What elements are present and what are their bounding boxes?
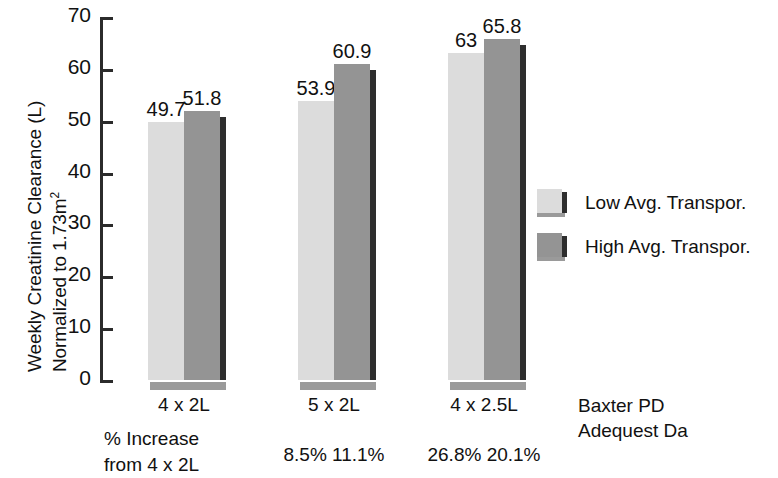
legend-swatch-icon — [537, 233, 567, 261]
bar-group: 49.751.84 x 2L — [148, 17, 220, 380]
y-axis-tick-mark — [100, 328, 113, 331]
percent-increase-note-line2: from 4 x 2L — [104, 452, 199, 478]
y-axis-tick-label: 0 — [79, 367, 91, 388]
source-caption-line2: Adequest Da — [578, 418, 688, 443]
bar-value-label: 51.8 — [183, 88, 222, 108]
y-axis-tick-label: 30 — [68, 211, 91, 232]
legend-swatch-base-shadow — [537, 213, 565, 217]
bar[interactable]: 53.9 — [298, 101, 334, 381]
bar[interactable]: 51.8 — [184, 111, 220, 380]
bar-body — [298, 101, 334, 381]
bar-value-label: 65.8 — [483, 16, 522, 36]
y-axis-tick-label: 70 — [68, 4, 91, 25]
bar-value-label: 60.9 — [333, 41, 372, 61]
bar-value-label: 63 — [455, 30, 477, 50]
bar-body — [184, 111, 220, 380]
legend-item[interactable]: High Avg. Transpor. — [537, 225, 750, 269]
legend-swatch-icon — [537, 189, 567, 217]
percent-increase-note-line1: % Increase — [104, 426, 199, 452]
y-axis-tick-label: 20 — [68, 263, 91, 284]
plot-area: 706050403020100 49.751.84 x 2L53.960.95 … — [100, 17, 560, 380]
legend-swatch-side-shadow — [562, 192, 567, 213]
y-axis-tick-mark — [100, 121, 113, 124]
y-axis-tick-mark — [100, 69, 113, 72]
legend-swatch-body — [537, 233, 562, 257]
y-axis-tick-mark — [100, 380, 113, 383]
y-axis-tick-mark — [100, 173, 113, 176]
y-axis-title-superscript: 2 — [48, 192, 62, 199]
legend-swatch-body — [537, 189, 562, 213]
y-axis-tick-label: 50 — [68, 108, 91, 129]
bar[interactable]: 63 — [448, 53, 484, 380]
legend-item-label: High Avg. Transpor. — [585, 236, 750, 258]
x-axis-category-label: 5 x 2L — [308, 394, 360, 416]
bar-group-base-shadow — [150, 382, 226, 390]
y-axis-title-line1: Weekly Creatinine Clearance (L) — [24, 101, 46, 372]
legend-swatch-side-shadow — [562, 236, 567, 257]
x-axis-category-label: 4 x 2.5L — [450, 394, 518, 416]
bar-side-shadow — [220, 117, 226, 380]
y-axis-tick-mark — [100, 224, 113, 227]
bar[interactable]: 65.8 — [484, 39, 520, 380]
y-axis-tick-mark — [100, 17, 113, 20]
bar-group: 6365.84 x 2.5L26.8% 20.1% — [448, 17, 520, 380]
bar-group: 53.960.95 x 2L8.5% 11.1% — [298, 17, 370, 380]
bar[interactable]: 49.7 — [148, 122, 184, 380]
source-caption: Baxter PD Adequest Da — [578, 393, 688, 443]
bar-group-base-shadow — [300, 382, 376, 390]
y-axis-tick-label: 60 — [68, 56, 91, 77]
y-axis-tick-mark — [100, 276, 113, 279]
percent-increase-value: 8.5% 11.1% — [283, 444, 384, 466]
legend: Low Avg. Transpor.High Avg. Transpor. — [537, 181, 750, 269]
y-axis-tick-label: 40 — [68, 160, 91, 181]
bar-value-label: 53.9 — [297, 78, 336, 98]
bar-group-base-shadow — [450, 382, 526, 390]
bar-side-shadow — [370, 70, 376, 380]
legend-swatch-base-shadow — [537, 257, 565, 261]
bar-body — [484, 39, 520, 380]
x-axis-category-label: 4 x 2L — [158, 394, 210, 416]
bar-body — [148, 122, 184, 380]
y-axis-tick-label: 10 — [68, 315, 91, 336]
bar[interactable]: 60.9 — [334, 64, 370, 380]
percent-increase-value: 26.8% 20.1% — [427, 444, 540, 466]
chart-figure: Weekly Creatinine Clearance (L) Normaliz… — [0, 0, 778, 478]
legend-item[interactable]: Low Avg. Transpor. — [537, 181, 750, 225]
percent-increase-note: % Increase from 4 x 2L — [104, 426, 199, 478]
bar-body — [448, 53, 484, 380]
bar-body — [334, 64, 370, 380]
source-caption-line1: Baxter PD — [578, 393, 688, 418]
y-axis-title: Weekly Creatinine Clearance (L) Normaliz… — [0, 0, 62, 400]
bar-side-shadow — [520, 45, 526, 380]
bar-value-label: 49.7 — [147, 99, 186, 119]
legend-item-label: Low Avg. Transpor. — [585, 192, 746, 214]
